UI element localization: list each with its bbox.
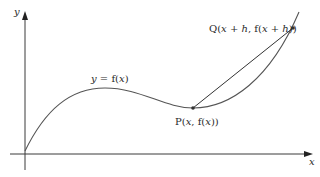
y-axis-label: y <box>13 6 20 17</box>
point-p <box>191 106 195 110</box>
x-axis-tag: x <box>309 156 315 167</box>
diagram-canvas: y x y = f(x) P(x, f(x)) Q(x + h, f(x + h… <box>0 0 320 177</box>
point-p-label: P(x, f(x)) <box>175 116 219 127</box>
secant-line <box>193 28 293 108</box>
curve-label: y = f(x) <box>90 73 129 84</box>
y-axis-arrow-icon <box>22 11 28 20</box>
point-q-label: Q(x + h, f(x + h)) <box>209 23 297 34</box>
